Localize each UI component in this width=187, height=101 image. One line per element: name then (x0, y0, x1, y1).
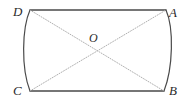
vertex-label-a: A (169, 6, 177, 19)
figure-canvas (0, 0, 187, 101)
center-label-o: O (89, 32, 98, 45)
vertex-label-c: C (13, 84, 22, 97)
left-arc-edge-dc (24, 10, 30, 91)
geometry-figure: D A B C O (0, 0, 187, 101)
vertex-label-d: D (13, 5, 22, 18)
vertex-label-b: B (169, 84, 177, 97)
right-arc-edge-ab (164, 10, 171, 91)
